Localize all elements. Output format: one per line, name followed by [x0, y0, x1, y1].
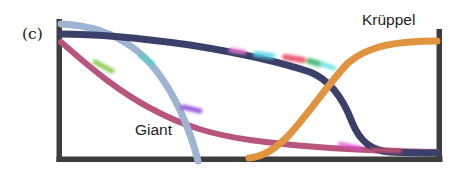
- artifact-pink-b: [231, 50, 244, 52]
- artifact-red-a: [285, 57, 303, 60]
- curve-label-giant: Giant: [135, 122, 172, 138]
- curve-label-kruppel: Krüppel: [362, 12, 415, 28]
- artifact-cyan-a: [256, 54, 272, 56]
- axis-right: [437, 29, 443, 162]
- artifact-red-e: [372, 150, 400, 151]
- figure-panel-c: (c) Giant Krüppel: [0, 0, 471, 184]
- panel-label-c: (c): [22, 27, 43, 43]
- artifact-green-a: [309, 61, 320, 64]
